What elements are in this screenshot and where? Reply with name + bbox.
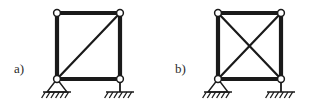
figure-canvas: a)b) <box>0 0 323 106</box>
panel-b-node-top-left <box>215 10 222 17</box>
panel-a-node-top-left <box>54 10 61 17</box>
panel-a-node-top-right <box>117 10 124 17</box>
panel-b-node-bottom-right <box>278 76 285 83</box>
structural-frame-figure: a)b) <box>0 0 323 106</box>
panel-b-node-top-right <box>278 10 285 17</box>
panel-b-label: b) <box>175 61 186 76</box>
panel-a-node-bottom-left <box>54 76 61 83</box>
panel-a-node-bottom-right <box>117 76 124 83</box>
panel-b-node-bottom-left <box>215 76 222 83</box>
panel-a-label: a) <box>14 61 24 76</box>
